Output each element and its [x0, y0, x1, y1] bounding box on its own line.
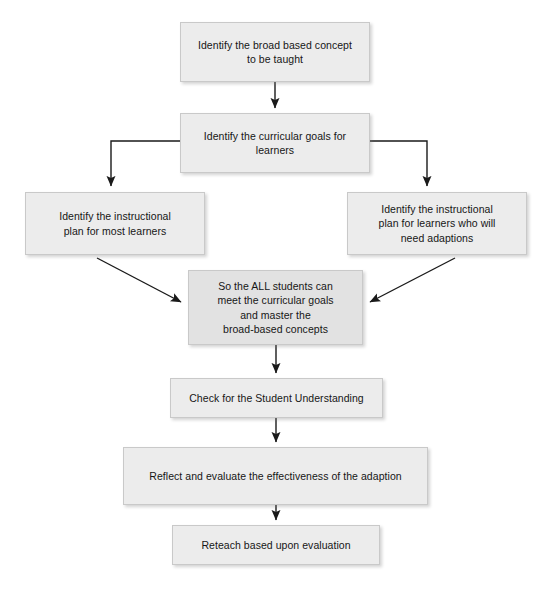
node-label: Identify the broad based concept to be t… [188, 38, 362, 67]
node-label: Reflect and evaluate the effectiveness o… [131, 469, 420, 484]
connector-adaption-learners-to-all-students [370, 258, 455, 302]
node-label: So the ALL students can meet the curricu… [196, 279, 355, 337]
flowchart-canvas: Identify the broad based concept to be t… [0, 0, 536, 590]
connector-most-learners-to-all-students [97, 258, 181, 302]
connector-goals-to-most-learners [111, 141, 180, 186]
node-check-student-understanding[interactable]: Check for the Student Understanding [170, 378, 383, 418]
node-all-students-meet-goals[interactable]: So the ALL students can meet the curricu… [188, 270, 363, 345]
node-label: Identify the instructional plan for lear… [355, 202, 519, 246]
node-reflect-and-evaluate[interactable]: Reflect and evaluate the effectiveness o… [123, 447, 428, 505]
node-reteach-based-upon-evaluation[interactable]: Reteach based upon evaluation [172, 525, 380, 565]
node-identify-curricular-goals[interactable]: Identify the curricular goals for learne… [180, 113, 370, 173]
node-label: Identify the curricular goals for learne… [188, 129, 362, 158]
node-label: Identify the instructional plan for most… [33, 209, 197, 238]
node-instructional-plan-need-adaptions[interactable]: Identify the instructional plan for lear… [347, 192, 527, 255]
node-label: Reteach based upon evaluation [180, 538, 372, 553]
node-label: Check for the Student Understanding [178, 391, 375, 406]
connector-goals-to-adaption-learners [370, 141, 427, 186]
node-instructional-plan-most-learners[interactable]: Identify the instructional plan for most… [25, 192, 205, 255]
node-identify-broad-based-concept[interactable]: Identify the broad based concept to be t… [180, 22, 370, 82]
